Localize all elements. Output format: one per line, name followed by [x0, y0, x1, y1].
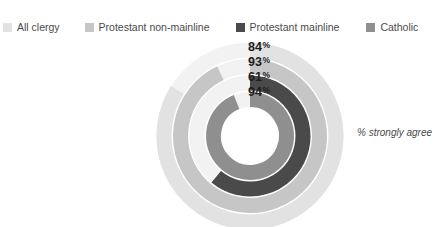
legend-item-all-clergy[interactable]: All clergy [3, 22, 60, 33]
radial-bar-chart: 84% 93% 61% 94% % strongly agree [0, 36, 440, 227]
value-label-catholic: 94% [226, 85, 270, 100]
legend-item-catholic[interactable]: Catholic [366, 22, 418, 33]
value-label-protestant-mainline-number: 61 [248, 70, 262, 84]
percent-sign-icon: % [262, 40, 270, 50]
chart-annotation: % strongly agree [357, 127, 432, 138]
value-label-all-clergy: 84% [226, 40, 270, 55]
clipped-page-title [0, 0, 440, 3]
ring-arc-4[interactable] [213, 100, 286, 173]
legend-item-protestant-mainline[interactable]: Protestant mainline [236, 22, 340, 33]
percent-sign-icon: % [262, 85, 270, 95]
legend-label-protestant-mainline: Protestant mainline [250, 22, 340, 33]
value-label-all-clergy-number: 84 [248, 40, 262, 54]
legend-swatch-protestant-mainline [236, 23, 245, 32]
value-label-catholic-number: 94 [248, 85, 262, 99]
legend-label-catholic: Catholic [380, 22, 418, 33]
legend-swatch-catholic [366, 23, 375, 32]
value-label-protestant-non-mainline-number: 93 [248, 55, 262, 69]
legend-swatch-protestant-non-mainline [85, 23, 94, 32]
value-label-protestant-mainline: 61% [226, 70, 270, 85]
legend-item-protestant-non-mainline[interactable]: Protestant non-mainline [85, 22, 210, 33]
percent-sign-icon: % [262, 70, 270, 80]
percent-sign-icon: % [262, 55, 270, 65]
value-label-group: 84% 93% 61% 94% [226, 40, 270, 100]
legend-label-all-clergy: All clergy [17, 22, 60, 33]
legend-swatch-all-clergy [3, 23, 12, 32]
value-label-protestant-non-mainline: 93% [226, 55, 270, 70]
legend-label-protestant-non-mainline: Protestant non-mainline [99, 22, 210, 33]
